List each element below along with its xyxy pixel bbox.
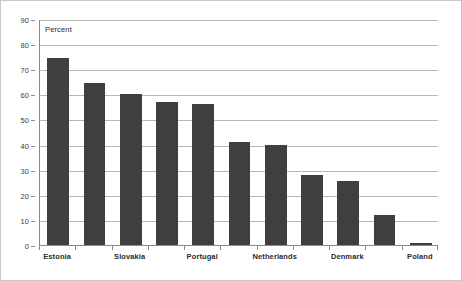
x-axis-tick-mark [148,246,149,250]
bar [301,175,323,245]
y-axis-tick-label: 80 [20,41,29,50]
x-axis-tick-mark [402,246,403,250]
x-axis-tick-mark [437,246,438,250]
y-axis-tick-mark [31,95,35,96]
y-axis-tick-label: 50 [20,116,29,125]
bar-chart-figure: 0102030405060708090 Percent EstoniaSlova… [0,0,462,281]
bar [47,58,69,245]
y-axis-tick-mark [31,221,35,222]
plot-area [39,20,438,246]
bar [84,83,106,245]
y-axis-tick-mark [31,196,35,197]
x-axis-ticks [39,246,438,250]
y-axis-tick-label: 60 [20,91,29,100]
y-axis-tick-mark [31,70,35,71]
bars-layer [40,20,438,245]
y-axis-tick-label: 30 [20,166,29,175]
y-axis-tick-label: 0 [25,242,29,251]
x-axis-tick-label: Portugal [187,252,218,261]
bar [374,215,396,245]
bar [229,142,251,245]
x-axis-tick-label: Slovakia [114,252,145,261]
y-axis-tick-label: 90 [20,16,29,25]
bar [120,94,142,245]
percent-annotation: Percent [45,25,72,34]
x-axis-tick-mark [39,246,40,250]
x-axis-labels: EstoniaSlovakiaPortugalNetherlandsDenmar… [39,252,438,266]
x-axis-tick-mark [365,246,366,250]
bar [410,243,432,246]
x-axis-tick-label: Denmark [331,252,364,261]
y-axis-tick-label: 10 [20,216,29,225]
x-axis-tick-mark [257,246,258,250]
bar [192,104,214,245]
x-axis-tick-label: Poland [407,252,433,261]
bar [156,102,178,245]
y-axis-tick-label: 20 [20,191,29,200]
x-axis-tick-label: Netherlands [253,252,297,261]
x-axis-tick-mark [112,246,113,250]
y-axis-tick-mark [31,146,35,147]
y-axis-tick-label: 40 [20,141,29,150]
y-axis-tick-mark [31,171,35,172]
x-axis-tick-mark [293,246,294,250]
x-axis-tick-mark [75,246,76,250]
y-axis-tick-mark [31,45,35,46]
bar [337,181,359,245]
y-axis: 0102030405060708090 [1,20,35,246]
x-axis-tick-mark [220,246,221,250]
x-axis-tick-mark [184,246,185,250]
x-axis-tick-label: Estonia [43,252,71,261]
y-axis-tick-mark [31,246,35,247]
y-axis-tick-label: 70 [20,66,29,75]
y-axis-tick-mark [31,20,35,21]
x-axis-tick-mark [329,246,330,250]
bar [265,145,287,245]
y-axis-tick-mark [31,120,35,121]
